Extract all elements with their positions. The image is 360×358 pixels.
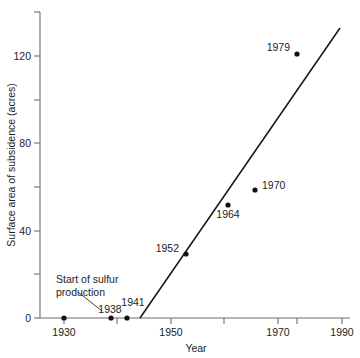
subsidence-scatter-chart: 0 40 80 120 1930 1950 1970 1990 bbox=[0, 0, 360, 358]
data-point-1979[interactable] bbox=[294, 51, 299, 56]
y-tick-label-80: 80 bbox=[19, 137, 31, 149]
annotation-line-2: production bbox=[56, 286, 105, 298]
data-label-1964: 1964 bbox=[216, 208, 240, 220]
data-point-1941[interactable] bbox=[124, 315, 129, 320]
y-tick-label-120: 120 bbox=[13, 50, 31, 62]
y-tick-label-0: 0 bbox=[25, 312, 31, 324]
data-point-1952[interactable] bbox=[183, 251, 188, 256]
x-tick-label-1990: 1990 bbox=[330, 326, 354, 338]
x-tick-label-1950: 1950 bbox=[159, 326, 183, 338]
y-axis-ticks bbox=[34, 12, 40, 318]
chart-svg: 0 40 80 120 1930 1950 1970 1990 bbox=[0, 0, 360, 358]
x-tick-label-1930: 1930 bbox=[52, 326, 76, 338]
y-axis-title: Surface area of subsidence (acres) bbox=[5, 83, 17, 246]
data-label-1938: 1938 bbox=[98, 303, 122, 315]
data-point-labels: 1938 1941 1952 1964 1970 1979 bbox=[98, 41, 290, 315]
x-axis-title: Year bbox=[185, 342, 207, 354]
annotation-line-1: Start of sulfur bbox=[56, 273, 119, 285]
data-label-1952: 1952 bbox=[156, 242, 180, 254]
sulfur-production-annotation: Start of sulfur production bbox=[56, 273, 119, 298]
data-point-1938[interactable] bbox=[108, 315, 113, 320]
data-point-1929[interactable] bbox=[61, 315, 66, 320]
data-label-1970: 1970 bbox=[262, 179, 286, 191]
y-tick-label-40: 40 bbox=[19, 225, 31, 237]
data-point-1964[interactable] bbox=[225, 202, 230, 207]
x-tick-label-1970: 1970 bbox=[266, 326, 290, 338]
trend-line bbox=[140, 28, 340, 318]
data-point-1970[interactable] bbox=[252, 187, 257, 192]
data-label-1979: 1979 bbox=[267, 41, 291, 53]
x-axis-tick-labels: 1930 1950 1970 1990 bbox=[52, 326, 354, 338]
data-label-1941: 1941 bbox=[121, 296, 145, 308]
x-axis-ticks bbox=[64, 318, 342, 324]
